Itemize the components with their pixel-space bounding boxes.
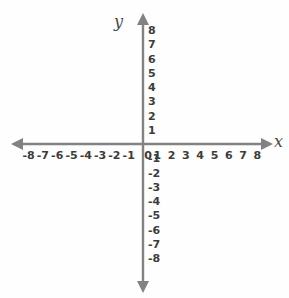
x-tick-label: -2 bbox=[108, 150, 120, 161]
y-tick-label: 8 bbox=[148, 25, 156, 36]
x-tick-label: 7 bbox=[239, 150, 247, 161]
y-tick-label: -7 bbox=[148, 238, 160, 249]
y-tick-label: -2 bbox=[148, 167, 160, 178]
x-tick-label: 8 bbox=[254, 150, 262, 161]
y-tick-label: 2 bbox=[148, 110, 156, 121]
y-tick-label: -3 bbox=[148, 181, 160, 192]
x-tick-label: 4 bbox=[196, 150, 204, 161]
y-tick-label: -6 bbox=[148, 224, 160, 235]
coordinate-plane: x y -8-7-6-5-4-3-2-1012345678 87654321-1… bbox=[0, 0, 289, 298]
x-tick-label: -3 bbox=[94, 150, 106, 161]
x-axis-label: x bbox=[274, 134, 283, 150]
x-tick-label: 2 bbox=[168, 150, 176, 161]
x-tick-label: -7 bbox=[37, 150, 49, 161]
y-axis-label: y bbox=[114, 14, 123, 30]
x-axis-right-arrowhead bbox=[261, 138, 273, 150]
y-tick-label: 1 bbox=[148, 124, 156, 135]
y-tick-label: -8 bbox=[148, 253, 160, 264]
y-axis-bottom-arrowhead bbox=[137, 281, 149, 293]
x-tick-label: -1 bbox=[123, 150, 135, 161]
x-axis-left-arrowhead bbox=[11, 138, 23, 150]
x-tick-label: -4 bbox=[80, 150, 92, 161]
x-tick-label: 5 bbox=[211, 150, 219, 161]
x-tick-label: -8 bbox=[22, 150, 34, 161]
y-tick-label: -4 bbox=[148, 196, 160, 207]
y-tick-label: -5 bbox=[148, 210, 160, 221]
y-tick-label: 3 bbox=[148, 96, 156, 107]
x-tick-label: -5 bbox=[65, 150, 77, 161]
x-tick-label: 6 bbox=[225, 150, 233, 161]
y-tick-label: 4 bbox=[148, 82, 156, 93]
y-tick-label: 6 bbox=[148, 53, 156, 64]
y-tick-label: 7 bbox=[148, 39, 156, 50]
x-tick-label: -6 bbox=[51, 150, 63, 161]
x-tick-label: 3 bbox=[182, 150, 190, 161]
y-tick-label: 5 bbox=[148, 67, 156, 78]
y-tick-label: -1 bbox=[148, 153, 160, 164]
